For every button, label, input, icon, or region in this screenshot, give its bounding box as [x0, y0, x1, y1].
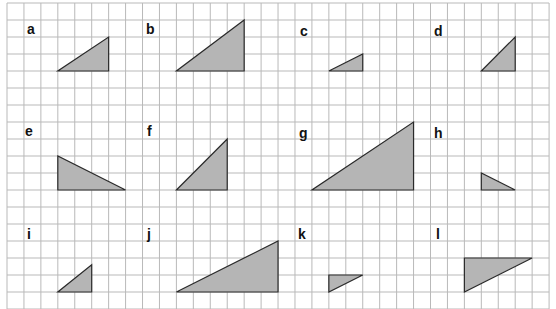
triangle-label-k: k [298, 227, 306, 241]
triangle-grid-worksheet: abcdefghijkl [0, 0, 556, 309]
triangle-label-l: l [436, 227, 440, 241]
triangle-label-a: a [27, 22, 35, 36]
triangle-label-i: i [27, 227, 31, 241]
triangle-label-c: c [300, 24, 308, 38]
triangle-label-h: h [434, 126, 443, 140]
triangle-label-d: d [434, 24, 443, 38]
grid-paper [0, 0, 556, 309]
triangle-f [176, 139, 227, 190]
triangle-label-f: f [147, 124, 152, 138]
triangle-label-b: b [146, 22, 155, 36]
triangle-label-j: j [147, 227, 151, 241]
triangle-label-e: e [25, 124, 33, 138]
triangle-label-g: g [299, 126, 308, 140]
